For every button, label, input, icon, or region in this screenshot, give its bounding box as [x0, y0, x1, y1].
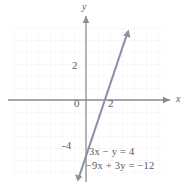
x-axis-label: x: [176, 94, 180, 104]
graph-figure: 2 0 2 -4 y x 3x − y = 4 −9x + 3y = −12: [0, 0, 185, 191]
y-tick-label-negative-4: -4: [62, 140, 71, 151]
equation-label-second: −9x + 3y = −12: [86, 161, 155, 172]
origin-label: 0: [74, 98, 80, 109]
x-tick-label-2: 2: [108, 98, 114, 109]
equation-label-first: 3x − y = 4: [89, 147, 134, 158]
y-axis-label: y: [82, 2, 86, 12]
y-tick-label-2: 2: [72, 60, 78, 71]
